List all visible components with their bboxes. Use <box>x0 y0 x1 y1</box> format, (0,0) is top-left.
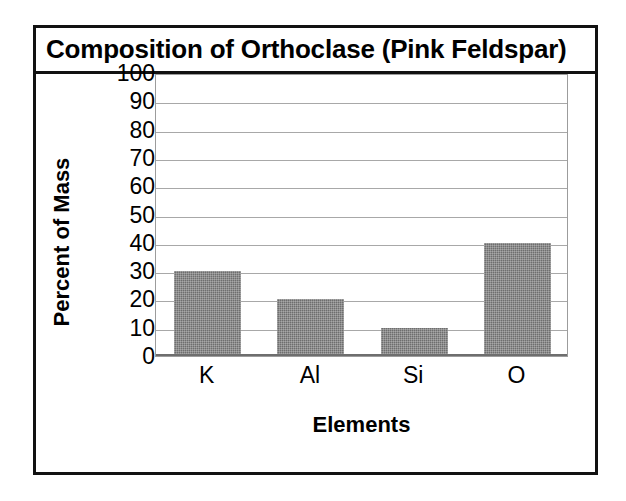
x-axis-tick-label: K <box>155 362 258 389</box>
bar-k <box>174 271 241 356</box>
y-axis-tick-label: 10 <box>78 317 155 340</box>
y-axis-tick-label: 30 <box>78 260 155 283</box>
bars-layer <box>156 75 567 356</box>
y-axis-tick-label: 70 <box>78 147 155 170</box>
chart-figure-frame: Composition of Orthoclase (Pink Feldspar… <box>33 25 598 475</box>
chart-body: Percent of Mass 1009080706050403020100 K… <box>36 74 595 472</box>
y-axis-tick-label: 20 <box>78 288 155 311</box>
x-axis-tick-label: Al <box>258 362 361 389</box>
x-axis-tick-labels: KAlSiO <box>155 362 568 396</box>
x-axis-baseline <box>156 354 567 356</box>
bar-si <box>381 328 448 356</box>
y-axis-tick-label: 0 <box>78 345 155 368</box>
y-axis-tick-label: 90 <box>78 90 155 113</box>
y-axis-tick-label: 60 <box>78 175 155 198</box>
y-axis-tick-label: 50 <box>78 204 155 227</box>
plot-area <box>155 74 568 357</box>
y-axis-tick-labels: 1009080706050403020100 <box>78 74 155 357</box>
x-axis-title: Elements <box>155 412 568 438</box>
y-axis-tick-label: 40 <box>78 232 155 255</box>
bar-al <box>277 299 344 356</box>
y-axis-title: Percent of Mass <box>49 152 75 332</box>
y-axis-tick-label: 100 <box>78 62 155 85</box>
x-axis-tick-label: Si <box>362 362 465 389</box>
bar-o <box>484 243 551 356</box>
x-axis-tick-label: O <box>465 362 568 389</box>
y-axis-tick-label: 80 <box>78 119 155 142</box>
